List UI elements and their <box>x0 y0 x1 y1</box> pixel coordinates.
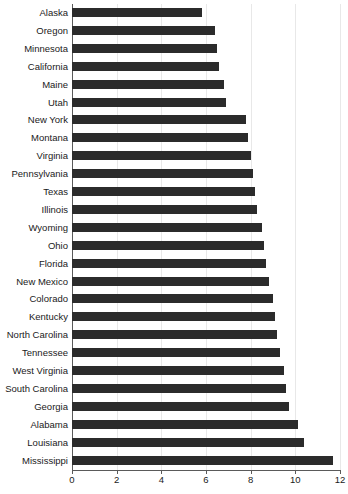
x-tick-label: 0 <box>69 474 74 486</box>
bar-row: Wyoming <box>0 219 348 237</box>
x-tick-label: 4 <box>159 474 164 486</box>
bar-row: Alabama <box>0 416 348 434</box>
bar <box>72 241 264 250</box>
bar <box>72 456 333 465</box>
category-label: Kentucky <box>0 311 68 322</box>
category-label: Florida <box>0 258 68 269</box>
bar <box>72 98 226 107</box>
category-label: Alabama <box>0 419 68 430</box>
category-label: Oregon <box>0 25 68 36</box>
bar <box>72 402 289 411</box>
bar-row: Virginia <box>0 147 348 165</box>
x-tick-label: 12 <box>335 474 346 486</box>
bar-row: New York <box>0 111 348 129</box>
bar <box>72 277 269 286</box>
category-label: Ohio <box>0 240 68 251</box>
bar-row: New Mexico <box>0 273 348 291</box>
category-label: Utah <box>0 97 68 108</box>
bar <box>72 384 286 393</box>
bar <box>72 169 253 178</box>
bar-row: Georgia <box>0 398 348 416</box>
bar <box>72 26 215 35</box>
category-label: South Carolina <box>0 383 68 394</box>
bar-row: Florida <box>0 255 348 273</box>
bar-row: North Carolina <box>0 326 348 344</box>
bar <box>72 348 280 357</box>
bar <box>72 115 246 124</box>
bar-row: Alaska <box>0 4 348 22</box>
category-label: California <box>0 61 68 72</box>
category-label: West Virginia <box>0 365 68 376</box>
bar <box>72 438 304 447</box>
bar-row: Mississippi <box>0 452 348 470</box>
bar-row: Kentucky <box>0 308 348 326</box>
bar <box>72 133 248 142</box>
bar <box>72 151 251 160</box>
bar-row: Utah <box>0 94 348 112</box>
bar <box>72 44 217 53</box>
bar-row: Texas <box>0 183 348 201</box>
bar-row: Pennsylvania <box>0 165 348 183</box>
bar-row: Minnesota <box>0 40 348 58</box>
bar <box>72 8 202 17</box>
bar-row: Oregon <box>0 22 348 40</box>
bar-row: West Virginia <box>0 362 348 380</box>
bar-chart: AlaskaOregonMinnesotaCaliforniaMaineUtah… <box>0 0 348 494</box>
category-label: Minnesota <box>0 43 68 54</box>
bar <box>72 205 257 214</box>
category-label: Georgia <box>0 401 68 412</box>
category-label: Wyoming <box>0 222 68 233</box>
bar-row: Montana <box>0 129 348 147</box>
x-tick-label: 2 <box>114 474 119 486</box>
bar <box>72 62 219 71</box>
category-label: New York <box>0 114 68 125</box>
bar <box>72 187 255 196</box>
bar-row: Maine <box>0 76 348 94</box>
category-label: Colorado <box>0 293 68 304</box>
x-tick-label: 8 <box>248 474 253 486</box>
bar-row: Colorado <box>0 290 348 308</box>
category-label: North Carolina <box>0 329 68 340</box>
category-label: Illinois <box>0 204 68 215</box>
x-tick-label: 10 <box>290 474 301 486</box>
category-label: Louisiana <box>0 437 68 448</box>
bar-row: Tennessee <box>0 344 348 362</box>
category-label: Maine <box>0 79 68 90</box>
bar-row: Louisiana <box>0 434 348 452</box>
bar-row: California <box>0 58 348 76</box>
bar <box>72 366 284 375</box>
bar <box>72 420 298 429</box>
bar <box>72 80 224 89</box>
bar <box>72 223 262 232</box>
bar-row: Ohio <box>0 237 348 255</box>
x-tick-label: 6 <box>203 474 208 486</box>
bar <box>72 294 273 303</box>
category-label: Texas <box>0 186 68 197</box>
category-label: Mississippi <box>0 455 68 466</box>
category-label: New Mexico <box>0 276 68 287</box>
category-label: Virginia <box>0 150 68 161</box>
bar-row: Illinois <box>0 201 348 219</box>
category-label: Alaska <box>0 7 68 18</box>
bar <box>72 259 266 268</box>
bar <box>72 330 277 339</box>
category-label: Pennsylvania <box>0 168 68 179</box>
bar-row: South Carolina <box>0 380 348 398</box>
category-label: Tennessee <box>0 347 68 358</box>
category-label: Montana <box>0 132 68 143</box>
bar <box>72 312 275 321</box>
